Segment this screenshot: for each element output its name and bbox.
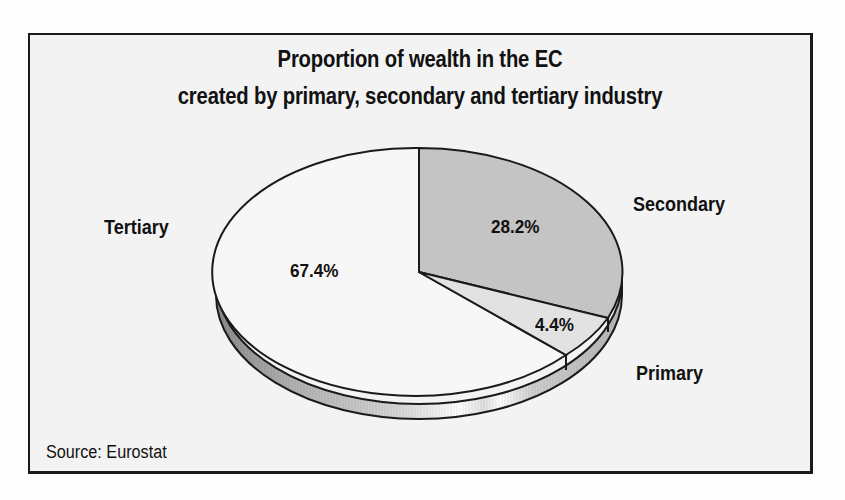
label-tertiary: Tertiary: [104, 216, 169, 239]
label-secondary: Secondary: [633, 193, 725, 216]
value-primary: 4.4%: [535, 314, 574, 336]
value-tertiary: 67.4%: [290, 260, 338, 282]
value-secondary: 28.2%: [491, 216, 539, 238]
pie-chart: [0, 0, 845, 500]
label-primary: Primary: [636, 362, 703, 385]
